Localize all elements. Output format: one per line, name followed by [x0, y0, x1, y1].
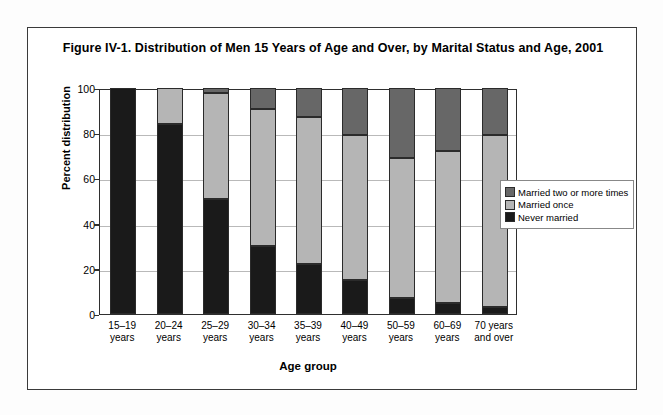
bar-column[interactable] [203, 88, 229, 314]
bar-segment[interactable] [296, 264, 322, 314]
x-axis-tick-label: 20–24years [145, 320, 193, 344]
bar-segment[interactable] [389, 88, 415, 158]
x-axis-tick-label-line: years [377, 332, 425, 344]
x-axis-tick-label: 40–49years [330, 320, 378, 344]
x-axis-tick-label-line: 25–29 [191, 320, 239, 332]
bar-segment[interactable] [342, 135, 368, 280]
x-axis-tick-label-line: 15–19 [98, 320, 146, 332]
figure-frame: Figure IV-1. Distribution of Men 15 Year… [27, 27, 637, 390]
x-axis-tick-label-line: 30–34 [238, 320, 286, 332]
legend-item[interactable]: Married two or more times [505, 187, 628, 198]
bar-segment[interactable] [342, 280, 368, 314]
x-axis-tick-label: 35–39years [284, 320, 332, 344]
bar-segment[interactable] [157, 88, 183, 124]
x-axis-tick-label-line: years [238, 332, 286, 344]
bar-segment[interactable] [250, 246, 276, 314]
legend-item-label: Married once [518, 199, 573, 210]
bar-segment[interactable] [250, 88, 276, 109]
bar-column[interactable] [250, 88, 276, 314]
x-axis-tick-labels: 15–19years20–24years25–29years30–34years… [99, 320, 517, 354]
bar-segment[interactable] [342, 88, 368, 135]
bar-column[interactable] [296, 88, 322, 314]
x-axis-tick-label: 70 yearsand over [470, 320, 518, 344]
y-axis-tick-marks [54, 89, 100, 315]
bar-column[interactable] [342, 88, 368, 314]
plot-wrapper: Percent distribution 020406080100 15–19y… [28, 28, 638, 391]
bar-segment[interactable] [482, 307, 508, 314]
x-axis-title: Age group [99, 360, 517, 372]
bar-segment[interactable] [435, 151, 461, 302]
bar-segment[interactable] [435, 88, 461, 151]
x-axis-tick-label: 15–19years [98, 320, 146, 344]
x-axis-tick-label-line: years [330, 332, 378, 344]
bar-segment[interactable] [389, 158, 415, 298]
bar-segment[interactable] [389, 298, 415, 314]
bar-segment[interactable] [435, 303, 461, 314]
legend-swatch-icon [505, 200, 515, 210]
bar-segment[interactable] [482, 88, 508, 135]
bar-segment[interactable] [203, 199, 229, 314]
legend-item-label: Married two or more times [518, 187, 628, 198]
x-axis-tick-label-line: 20–24 [145, 320, 193, 332]
bar-segment[interactable] [110, 88, 136, 314]
page-background: Figure IV-1. Distribution of Men 15 Year… [0, 0, 663, 415]
bar-column[interactable] [110, 88, 136, 314]
x-axis-tick-label-line: 60–69 [423, 320, 471, 332]
x-axis-tick-label-line: years [98, 332, 146, 344]
bar-segment[interactable] [203, 93, 229, 199]
bar-segment[interactable] [203, 88, 229, 93]
bar-column[interactable] [389, 88, 415, 314]
x-axis-tick-label-line: years [284, 332, 332, 344]
x-axis-tick-label-line: 35–39 [284, 320, 332, 332]
x-axis-tick-label-line: and over [470, 332, 518, 344]
x-axis-tick-label-line: 50–59 [377, 320, 425, 332]
x-axis-tick-label: 60–69years [423, 320, 471, 344]
x-axis-tick-label-line: years [145, 332, 193, 344]
legend-item-label: Never married [518, 212, 578, 223]
legend-item[interactable]: Married once [505, 199, 628, 210]
bar-segment[interactable] [157, 124, 183, 314]
bar-column[interactable] [157, 88, 183, 314]
x-axis-tick-label-line: 70 years [470, 320, 518, 332]
x-axis-tick-label: 25–29years [191, 320, 239, 344]
legend-swatch-icon [505, 212, 515, 222]
legend-item[interactable]: Never married [505, 212, 628, 223]
x-axis-tick-label-line: 40–49 [330, 320, 378, 332]
legend-swatch-icon [505, 187, 515, 197]
legend: Married two or more timesMarried onceNev… [500, 180, 634, 229]
x-axis-tick-label: 50–59years [377, 320, 425, 344]
plot-area [99, 89, 517, 315]
x-axis-tick-label: 30–34years [238, 320, 286, 344]
x-axis-tick-label-line: years [423, 332, 471, 344]
bar-segment[interactable] [250, 109, 276, 246]
x-axis-tick-label-line: years [191, 332, 239, 344]
bar-column[interactable] [435, 88, 461, 314]
bar-segment[interactable] [296, 117, 322, 264]
bar-segment[interactable] [296, 88, 322, 117]
